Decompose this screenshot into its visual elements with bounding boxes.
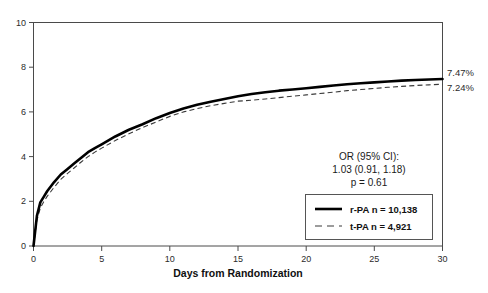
endpoint-label-r-pa: 7.47% (447, 67, 474, 78)
chart-legend: r-PA n = 10,138 t-PA n = 4,921 (306, 195, 433, 240)
legend-label-r-pa: r-PA n = 10,138 (350, 204, 417, 215)
y-tick-label-4: 4 (21, 152, 26, 162)
y-tick-label-6: 6 (21, 107, 26, 117)
x-axis-title: Days from Randomization (173, 267, 303, 279)
y-tick-label-10: 10 (16, 18, 26, 28)
x-axis-ticks (34, 246, 443, 251)
x-tick-label-15: 15 (233, 254, 243, 264)
chart-canvas: 10 8 6 4 2 0 0 5 10 15 20 25 30 Days fro… (0, 0, 488, 293)
legend-label-t-pa: t-PA n = 4,921 (350, 221, 412, 232)
kaplan-meier-chart-figure: 10 8 6 4 2 0 0 5 10 15 20 25 30 Days fro… (0, 0, 488, 293)
x-tick-label-0: 0 (31, 254, 36, 264)
endpoint-label-t-pa: 7.24% (447, 82, 474, 93)
x-tick-label-20: 20 (301, 254, 311, 264)
legend-border (306, 195, 433, 240)
or-value: 1.03 (0.91, 1.18) (332, 164, 405, 175)
p-value: p = 0.61 (351, 177, 388, 188)
y-axis-ticks (29, 23, 34, 247)
x-tick-label-10: 10 (165, 254, 175, 264)
odds-ratio-annotation: OR (95% CI): 1.03 (0.91, 1.18) p = 0.61 (332, 151, 405, 188)
y-tick-label-8: 8 (21, 62, 26, 72)
x-tick-label-30: 30 (437, 254, 447, 264)
or-label: OR (95% CI): (339, 151, 399, 162)
x-tick-label-25: 25 (369, 254, 379, 264)
x-tick-label-5: 5 (99, 254, 104, 264)
y-tick-label-2: 2 (21, 196, 26, 206)
y-tick-label-0: 0 (21, 241, 26, 251)
